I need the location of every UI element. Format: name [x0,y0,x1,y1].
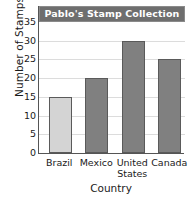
y-axis-tick-label: 30 [16,36,36,46]
x-axis-tick-label-line: Canada [147,157,188,168]
y-axis-tick-label: 15 [16,92,36,102]
y-axis-tick-label: 25 [16,55,36,65]
bar-united-states [122,41,145,153]
x-axis-tick-labels: BrazilMexicoUnitedStatesCanada [38,157,184,183]
x-axis-tick-label: Canada [147,157,188,168]
y-axis-tick-label: 5 [16,130,36,140]
bar-canada [158,59,181,153]
x-axis-tick-label-line: States [110,168,155,179]
x-axis-title: Country [38,182,184,194]
bars-layer [39,6,185,153]
bar-chart: Number of Stamps 05101520253035 Pablo's … [0,0,188,197]
y-axis-tick-label: 0 [16,148,36,158]
y-axis-tick-labels: 05101520253035 [16,14,36,156]
y-axis-tick-label: 35 [16,17,36,27]
bar-brazil [49,97,72,153]
y-axis-tick-label: 20 [16,73,36,83]
bar-mexico [85,78,108,153]
plot-area: Pablo's Stamp Collection [38,6,184,154]
y-axis-tick-label: 10 [16,111,36,121]
